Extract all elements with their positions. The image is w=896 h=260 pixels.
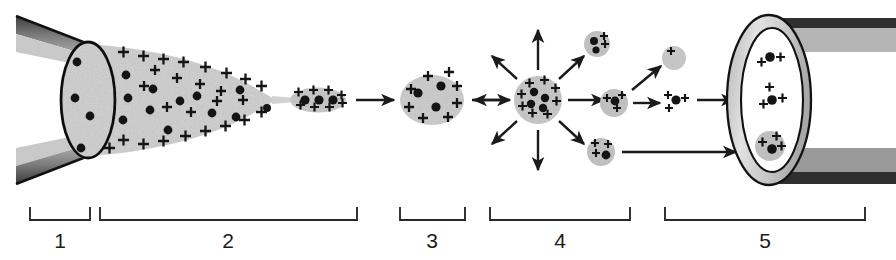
explosion-arrow-down-left bbox=[492, 121, 517, 144]
charged-droplet-stage3 bbox=[400, 67, 464, 125]
bracket-3 bbox=[400, 207, 465, 220]
bracket-1 bbox=[30, 207, 90, 220]
explosion-arrow-up-left bbox=[492, 56, 517, 79]
charge-plus bbox=[444, 67, 454, 77]
progeny-droplets bbox=[584, 31, 689, 166]
bracket-label-4: 4 bbox=[554, 229, 566, 252]
explosion-arrow-down-right bbox=[559, 121, 584, 144]
progeny-droplet-lower bbox=[587, 138, 615, 166]
diagram-canvas: 1 2 3 4 5 bbox=[0, 0, 896, 260]
needle-tip-meniscus bbox=[61, 42, 115, 158]
bracket-2 bbox=[100, 207, 357, 220]
progeny-droplet-middle bbox=[600, 89, 628, 117]
desolvation-arrow-diagonal bbox=[632, 66, 661, 90]
bracket-label-1: 1 bbox=[54, 229, 66, 252]
charge-plus bbox=[665, 104, 673, 112]
bracket-label-5: 5 bbox=[759, 229, 771, 252]
explosion-arrow-up-right bbox=[559, 56, 584, 79]
progeny-droplet-upper bbox=[584, 31, 610, 57]
esi-diagram-figure: 1 2 3 4 5 bbox=[0, 0, 896, 260]
bracket-4 bbox=[490, 207, 630, 220]
bare-gas-phase-ion bbox=[664, 91, 689, 112]
stage-bracket-labels: 1 2 3 4 5 bbox=[54, 229, 771, 252]
bracket-label-2: 2 bbox=[222, 229, 234, 252]
charge-plus bbox=[664, 91, 672, 99]
bracket-5 bbox=[665, 207, 865, 220]
meniscus-ellipse bbox=[61, 42, 115, 158]
droplet-body bbox=[400, 75, 464, 125]
bracket-label-3: 3 bbox=[426, 229, 438, 252]
charge-plus bbox=[681, 94, 689, 102]
progeny-droplet-evaporated bbox=[662, 46, 686, 70]
mass-spectrometer-inlet bbox=[727, 15, 896, 185]
stage-brackets bbox=[30, 207, 865, 220]
